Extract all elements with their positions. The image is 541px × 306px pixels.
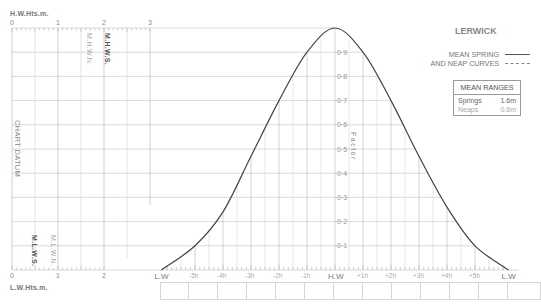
time-entry-cell[interactable] (161, 283, 189, 299)
time-label: -1h (301, 272, 310, 279)
time-entry-cell[interactable] (189, 283, 218, 299)
time-label: +3h (413, 272, 424, 279)
lw-heights-title: L.W.Hts.m. (10, 284, 48, 291)
lw-tick-1: 1 (56, 272, 60, 279)
lw-tick-0: 0 (10, 272, 14, 279)
mlwn-label: M.L.W.N. (50, 235, 57, 266)
time-label: H.W (328, 272, 344, 281)
time-entry-cell[interactable] (508, 283, 540, 299)
time-entry-cell[interactable] (363, 283, 392, 299)
time-label: -4h (217, 272, 226, 279)
factor-tick-label: 0·9 (337, 49, 347, 56)
station-name: LERWICK (455, 26, 497, 36)
hw-tick-3: 3 (148, 19, 152, 26)
time-label: +2h (385, 272, 396, 279)
time-label: -5h (189, 272, 198, 279)
time-label: -2h (273, 272, 282, 279)
legend-neap-label: AND NEAP CURVES (431, 59, 499, 68)
mean-ranges-box: MEAN RANGES Springs 1.6m Neaps 0.8m (453, 80, 521, 116)
time-entry-cell[interactable] (421, 283, 450, 299)
time-entry-cell[interactable] (247, 283, 276, 299)
mhws-label: M.H.W.S. (104, 33, 111, 65)
time-entry-cell[interactable] (479, 283, 508, 299)
springs-label: Springs (458, 97, 482, 104)
solid-line-swatch-icon (505, 54, 530, 55)
mean-ranges-title: MEAN RANGES (454, 81, 520, 95)
time-entry-cell[interactable] (392, 283, 421, 299)
factor-tick-label: 0·2 (337, 218, 347, 225)
factor-tick-label: 0·1 (337, 242, 347, 249)
hw-heights-title: H.W.Hts.m. (10, 10, 49, 17)
factor-tick-label: 0·5 (337, 146, 347, 153)
neaps-row: Neaps 0.8m (454, 105, 520, 115)
time-entry-cell[interactable] (305, 283, 334, 299)
factor-tick-label: 0·3 (337, 194, 347, 201)
dashed-line-swatch-icon (505, 63, 530, 64)
hw-tick-1: 1 (56, 19, 60, 26)
legend-spring-label: MEAN SPRING (449, 50, 499, 59)
hw-tick-0: 0 (10, 19, 14, 26)
mlws-label: M.L.W.S. (31, 235, 38, 266)
factor-tick-label: 0·6 (337, 121, 347, 128)
legend-spring: MEAN SPRING (400, 50, 530, 59)
time-entry-cell[interactable] (218, 283, 247, 299)
legend: MEAN SPRING AND NEAP CURVES (400, 50, 530, 68)
time-label: +4h (441, 272, 452, 279)
time-label: +5h (469, 272, 480, 279)
time-entry-cell[interactable] (276, 283, 305, 299)
time-entry-cell[interactable] (450, 283, 479, 299)
factor-tick-label: 0·4 (337, 170, 347, 177)
lw-tick-2: 2 (102, 272, 106, 279)
tidal-curve-chart: 0·10·20·30·40·50·60·70·80·9 (0, 0, 541, 306)
hw-tick-2: 2 (102, 19, 106, 26)
time-entry-cell[interactable] (334, 283, 363, 299)
factor-tick-label: 0·7 (337, 97, 347, 104)
time-label: +1h (357, 272, 368, 279)
factor-tick-labels: 0·10·20·30·40·50·60·70·80·9 (337, 49, 347, 250)
time-label: -3h (245, 272, 254, 279)
mhwn-label: M.H.W.N. (86, 33, 93, 65)
time-label: L.W (502, 272, 516, 281)
springs-value: 1.6m (500, 97, 516, 104)
factor-tick-label: 0·8 (337, 73, 347, 80)
legend-neap: AND NEAP CURVES (400, 59, 530, 68)
time-entry-boxes (160, 282, 541, 300)
neaps-label: Neaps (458, 106, 478, 113)
time-label: L.W (154, 272, 168, 281)
springs-row: Springs 1.6m (454, 95, 520, 105)
factor-axis-label: Factor (350, 132, 357, 161)
chart-datum-label: CHART DATUM (13, 120, 22, 177)
neaps-value: 0.8m (500, 106, 516, 113)
